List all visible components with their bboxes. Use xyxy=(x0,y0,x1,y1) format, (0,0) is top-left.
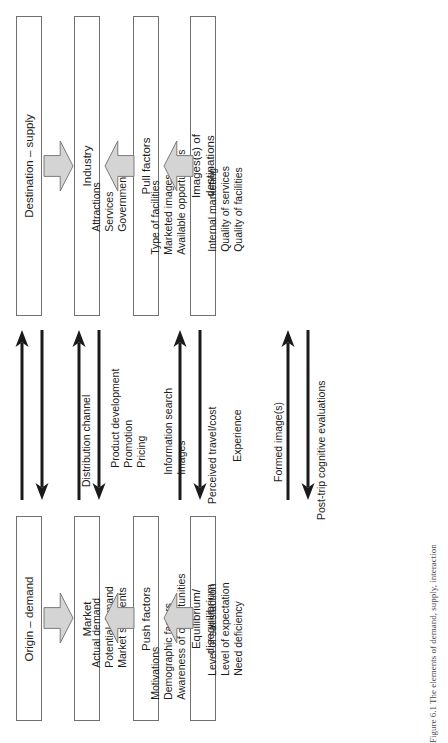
box-label: Push factors xyxy=(139,587,153,651)
interaction-arrow-down-1 xyxy=(34,330,50,500)
pull-to-industry-block-arrow xyxy=(104,140,134,192)
bullet-item: Promotion xyxy=(122,420,136,468)
bullet-item: Services xyxy=(103,192,117,232)
box-pull-factors: Pull factors xyxy=(133,16,159,316)
bullet-item: Quality of services xyxy=(219,166,233,252)
bullet-item: Quality of facilities xyxy=(233,167,247,252)
bullet-item: Level of expectation xyxy=(219,583,233,676)
box-industry: Industry xyxy=(74,16,100,316)
box-label: Destination – supply xyxy=(22,114,36,218)
bullet-item: Images xyxy=(175,441,189,475)
images-to-pull-block-arrow xyxy=(163,140,193,192)
origin-to-market-block-arrow xyxy=(44,592,74,644)
bullet-item: Pricing xyxy=(136,436,150,468)
supply-to-industry-block-arrow xyxy=(44,140,74,192)
figure-caption: Figure 6.1 The elements of demand, suppl… xyxy=(428,544,438,743)
push-to-market-block-arrow xyxy=(104,592,134,644)
bullet-item: Product development xyxy=(109,369,123,468)
bullet-item: Need deficiency xyxy=(233,601,247,676)
label-post-trip-evaluations: Post-trip cognitive evaluations xyxy=(315,381,327,521)
interaction-arrow-up-1 xyxy=(14,330,30,500)
bullet-item: Internal marketing xyxy=(206,168,220,252)
bullet-item: Actual demand xyxy=(90,598,104,668)
bullet-item: Type of facilities xyxy=(149,180,163,255)
box-destination-supply: Destination – supply xyxy=(16,16,42,316)
box-origin-demand: Origin – demand xyxy=(16,516,42,721)
equilibrium-to-push-block-arrow xyxy=(163,592,193,644)
box-label: Origin – demand xyxy=(22,576,36,661)
bullet-item: Information search xyxy=(162,388,176,475)
label-formed-images: Formed image(s) xyxy=(272,402,284,482)
box-images-of-destinations: Images(s) of destinations xyxy=(190,16,216,316)
bullet-item: Attractions xyxy=(90,182,104,232)
bullet-item: Motivations xyxy=(149,647,163,700)
label-distribution-channel: Distribution channel xyxy=(80,395,92,487)
label-perceived-travel-cost: Perceived travel/cost xyxy=(206,407,218,504)
box-label: Industry xyxy=(80,146,94,187)
bullet-item: Experience xyxy=(231,409,245,462)
bullet-item: Level of satisfaction xyxy=(206,584,220,676)
interaction-arrow-down-distribution xyxy=(91,330,107,500)
interaction-arrow-down-image xyxy=(300,330,316,500)
